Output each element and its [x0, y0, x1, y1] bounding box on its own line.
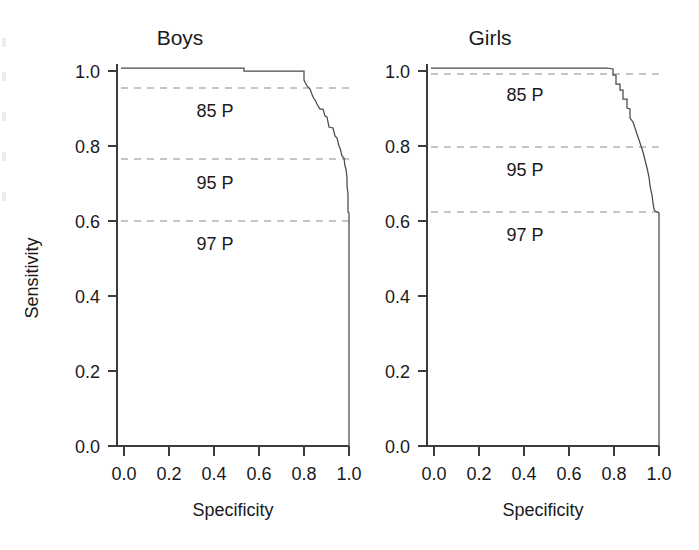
reference-label-85p: 85 P — [506, 85, 543, 105]
y-tick-label: 1.0 — [385, 62, 410, 82]
y-tick-label: 0.8 — [75, 137, 100, 157]
x-tick-label: 0.8 — [291, 464, 316, 484]
x-tick-label: 0.0 — [421, 464, 446, 484]
y-tick-label: 0.0 — [385, 437, 410, 457]
roc-curve-boys — [121, 68, 349, 446]
panel-boys: Boys 1.0 0.8 0.6 0.4 0.2 0.0 — [75, 26, 362, 484]
reference-label-85p: 85 P — [196, 101, 233, 121]
x-tick-label: 0.8 — [601, 464, 626, 484]
x-tick-label: 0.2 — [466, 464, 491, 484]
x-axis-title-boys: Specificity — [192, 500, 273, 520]
y-tick-label: 0.6 — [75, 212, 100, 232]
y-tick-label: 0.6 — [385, 212, 410, 232]
x-axis-labels-boys: 0.0 0.2 0.4 0.6 0.8 1.0 — [111, 464, 361, 484]
x-axis-ticks-boys — [124, 446, 349, 456]
reference-label-95p: 95 P — [506, 160, 543, 180]
x-tick-label: 0.2 — [156, 464, 181, 484]
x-tick-label: 0.6 — [556, 464, 581, 484]
x-tick-label: 0.4 — [201, 464, 226, 484]
roc-curve-girls — [431, 68, 659, 446]
y-tick-label: 0.2 — [75, 362, 100, 382]
y-tick-label: 0.4 — [75, 287, 100, 307]
reference-lines-boys — [121, 88, 349, 221]
reference-label-97p: 97 P — [506, 225, 543, 245]
panel-girls: Girls 1.0 0.8 0.6 0.4 0.2 0.0 — [385, 26, 672, 484]
roc-figure-container: Boys 1.0 0.8 0.6 0.4 0.2 0.0 — [0, 0, 699, 550]
reference-labels-boys: 85 P 95 P 97 P — [196, 101, 233, 254]
y-axis-ticks-girls — [418, 71, 427, 446]
y-tick-label: 0.8 — [385, 137, 410, 157]
axis-frame-girls — [427, 64, 659, 446]
y-axis-title: Sensitivity — [22, 237, 42, 318]
panel-title-boys: Boys — [157, 26, 204, 49]
y-tick-label: 1.0 — [75, 62, 100, 82]
reference-lines-girls — [431, 74, 659, 212]
y-axis-labels-girls: 1.0 0.8 0.6 0.4 0.2 0.0 — [385, 62, 410, 457]
x-tick-label: 1.0 — [646, 464, 671, 484]
y-axis-ticks-boys — [108, 71, 117, 446]
y-tick-label: 0.4 — [385, 287, 410, 307]
axis-frame-boys — [117, 64, 349, 446]
reference-label-95p: 95 P — [196, 173, 233, 193]
reference-labels-girls: 85 P 95 P 97 P — [506, 85, 543, 245]
y-axis-labels-boys: 1.0 0.8 0.6 0.4 0.2 0.0 — [75, 62, 100, 457]
x-axis-labels-girls: 0.0 0.2 0.4 0.6 0.8 1.0 — [421, 464, 671, 484]
x-tick-label: 1.0 — [336, 464, 361, 484]
reference-label-97p: 97 P — [196, 234, 233, 254]
x-tick-label: 0.0 — [111, 464, 136, 484]
x-axis-title-girls: Specificity — [502, 500, 583, 520]
y-tick-label: 0.2 — [385, 362, 410, 382]
page-edge-artifacts — [2, 38, 6, 201]
panel-title-girls: Girls — [468, 26, 511, 49]
x-tick-label: 0.4 — [511, 464, 536, 484]
x-tick-label: 0.6 — [246, 464, 271, 484]
x-axis-ticks-girls — [434, 446, 659, 456]
roc-figure-svg: Boys 1.0 0.8 0.6 0.4 0.2 0.0 — [0, 0, 699, 550]
y-tick-label: 0.0 — [75, 437, 100, 457]
